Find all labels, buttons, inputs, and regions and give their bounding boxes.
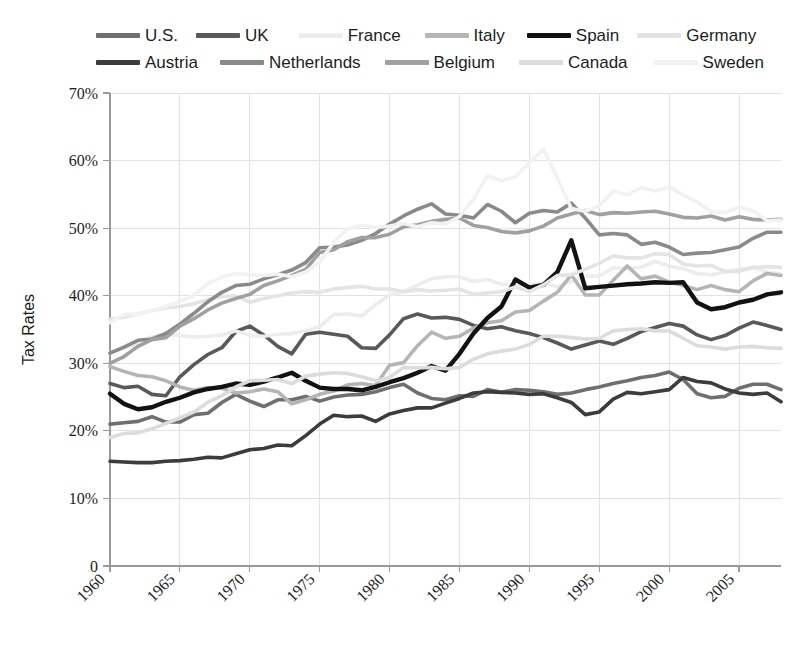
series-line-uk (110, 314, 781, 396)
x-tick-label: 1970 (213, 570, 248, 605)
x-tick-label: 1985 (423, 570, 458, 605)
x-tick-label: 1990 (493, 570, 528, 605)
y-tick-label: 40% (69, 287, 98, 304)
y-tick-label: 50% (69, 220, 98, 237)
y-axis-title: Tax Rates (20, 294, 37, 365)
gridlines (110, 93, 781, 566)
axis-lines (103, 93, 781, 572)
series-line-belgium (110, 211, 781, 364)
chart-figure: U.S.UKFranceItalySpainGermany AustriaNet… (0, 0, 801, 649)
y-tick-label: 20% (69, 422, 98, 439)
plot-area: 010%20%30%40%50%60%70% 19601965197019751… (0, 0, 801, 649)
y-tick-label: 70% (69, 85, 98, 102)
x-tick-label: 2000 (633, 570, 668, 605)
x-tick-label: 1965 (143, 570, 178, 605)
y-tick-label: 30% (69, 355, 98, 372)
line-chart-svg: 010%20%30%40%50%60%70% 19601965197019751… (0, 0, 801, 649)
x-tick-label: 2005 (703, 570, 738, 605)
series-lines (110, 149, 781, 463)
x-tick-label: 1975 (283, 570, 318, 605)
y-tick-label: 60% (69, 152, 98, 169)
series-line-sweden (110, 149, 781, 323)
series-line-canada (110, 329, 781, 438)
x-tick-label: 1980 (353, 570, 388, 605)
y-tick-label: 10% (69, 490, 98, 507)
y-axis-tick-labels: 010%20%30%40%50%60%70% (69, 85, 98, 575)
x-axis-tick-labels: 1960196519701975198019851990199520002005 (73, 570, 737, 605)
x-tick-label: 1960 (73, 570, 108, 605)
x-tick-label: 1995 (563, 570, 598, 605)
y-axis-title-text: Tax Rates (20, 294, 37, 365)
